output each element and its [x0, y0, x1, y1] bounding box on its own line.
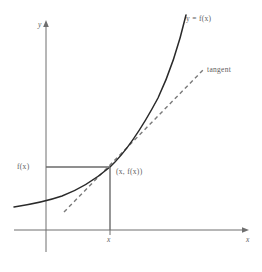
tangent-line — [64, 68, 205, 212]
tangency-point-label: (x, f(x)) — [116, 168, 142, 176]
x-axis-arrow-icon — [242, 227, 249, 233]
tangent-label: tangent — [207, 66, 231, 74]
x-tick-label: x — [107, 236, 111, 244]
y-axis-arrow-icon — [43, 20, 49, 27]
y-value-label: f(x) — [17, 163, 29, 171]
curve-label: y = f(x) — [186, 15, 211, 23]
x-axis-label: x — [246, 236, 250, 244]
function-curve — [14, 15, 186, 207]
y-axis-label: y — [38, 21, 42, 29]
tangent-line-figure: y = f(x) tangent (x, f(x)) f(x) y x x — [0, 0, 262, 272]
figure-canvas — [0, 0, 262, 272]
